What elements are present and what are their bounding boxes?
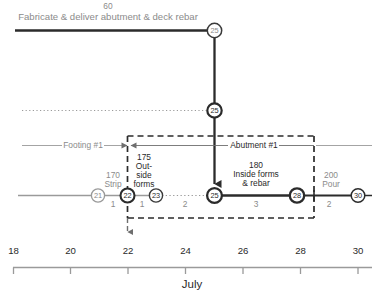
axis-tick-28: 28 (295, 246, 306, 256)
axis-tick-22: 22 (123, 246, 134, 256)
axis-tick-18: 18 (8, 246, 19, 256)
node-30-label: 30 (354, 192, 362, 199)
duration-200: 2 (327, 200, 332, 209)
axis-tick-20: 20 (65, 246, 76, 256)
duration-175: 1 (140, 200, 145, 209)
timeline-month-label: July (182, 278, 202, 290)
band-label-abutment-1: Abutment #1 (230, 141, 278, 150)
activity-60-description: Fabricate & deliver abutment & deck reba… (18, 12, 198, 22)
band-label-footing-1: Footing #1 (63, 141, 103, 150)
float-23-25: 2 (183, 200, 188, 209)
axis-tick-24: 24 (180, 246, 191, 256)
node-23-label: 23 (152, 192, 160, 199)
network-diagram-svg (0, 0, 385, 298)
axis-tick-30: 30 (353, 246, 364, 256)
node-25-middle-label: 25 (210, 107, 218, 114)
activity-200-description: Pour (322, 180, 340, 189)
duration-180: 3 (254, 200, 259, 209)
node-25-bottom-label: 25 (210, 192, 218, 199)
axis-tick-26: 26 (238, 246, 249, 256)
node-21-label: 21 (94, 192, 102, 199)
diagram-canvas: 60 Fabricate & deliver abutment & deck r… (0, 0, 385, 298)
node-28-label: 28 (293, 192, 301, 199)
node-25-top-label: 25 (210, 27, 218, 34)
activity-60-id: 60 (103, 2, 112, 11)
node-22-label: 22 (123, 192, 131, 199)
activity-175-desc-line3: forms (134, 180, 155, 189)
activity-170-description: Strip (104, 180, 121, 189)
activity-180-desc-line2: & rebar (242, 179, 269, 188)
duration-170: 1 (111, 200, 116, 209)
time-axis (13, 268, 372, 275)
dashed-window-box (128, 136, 315, 218)
